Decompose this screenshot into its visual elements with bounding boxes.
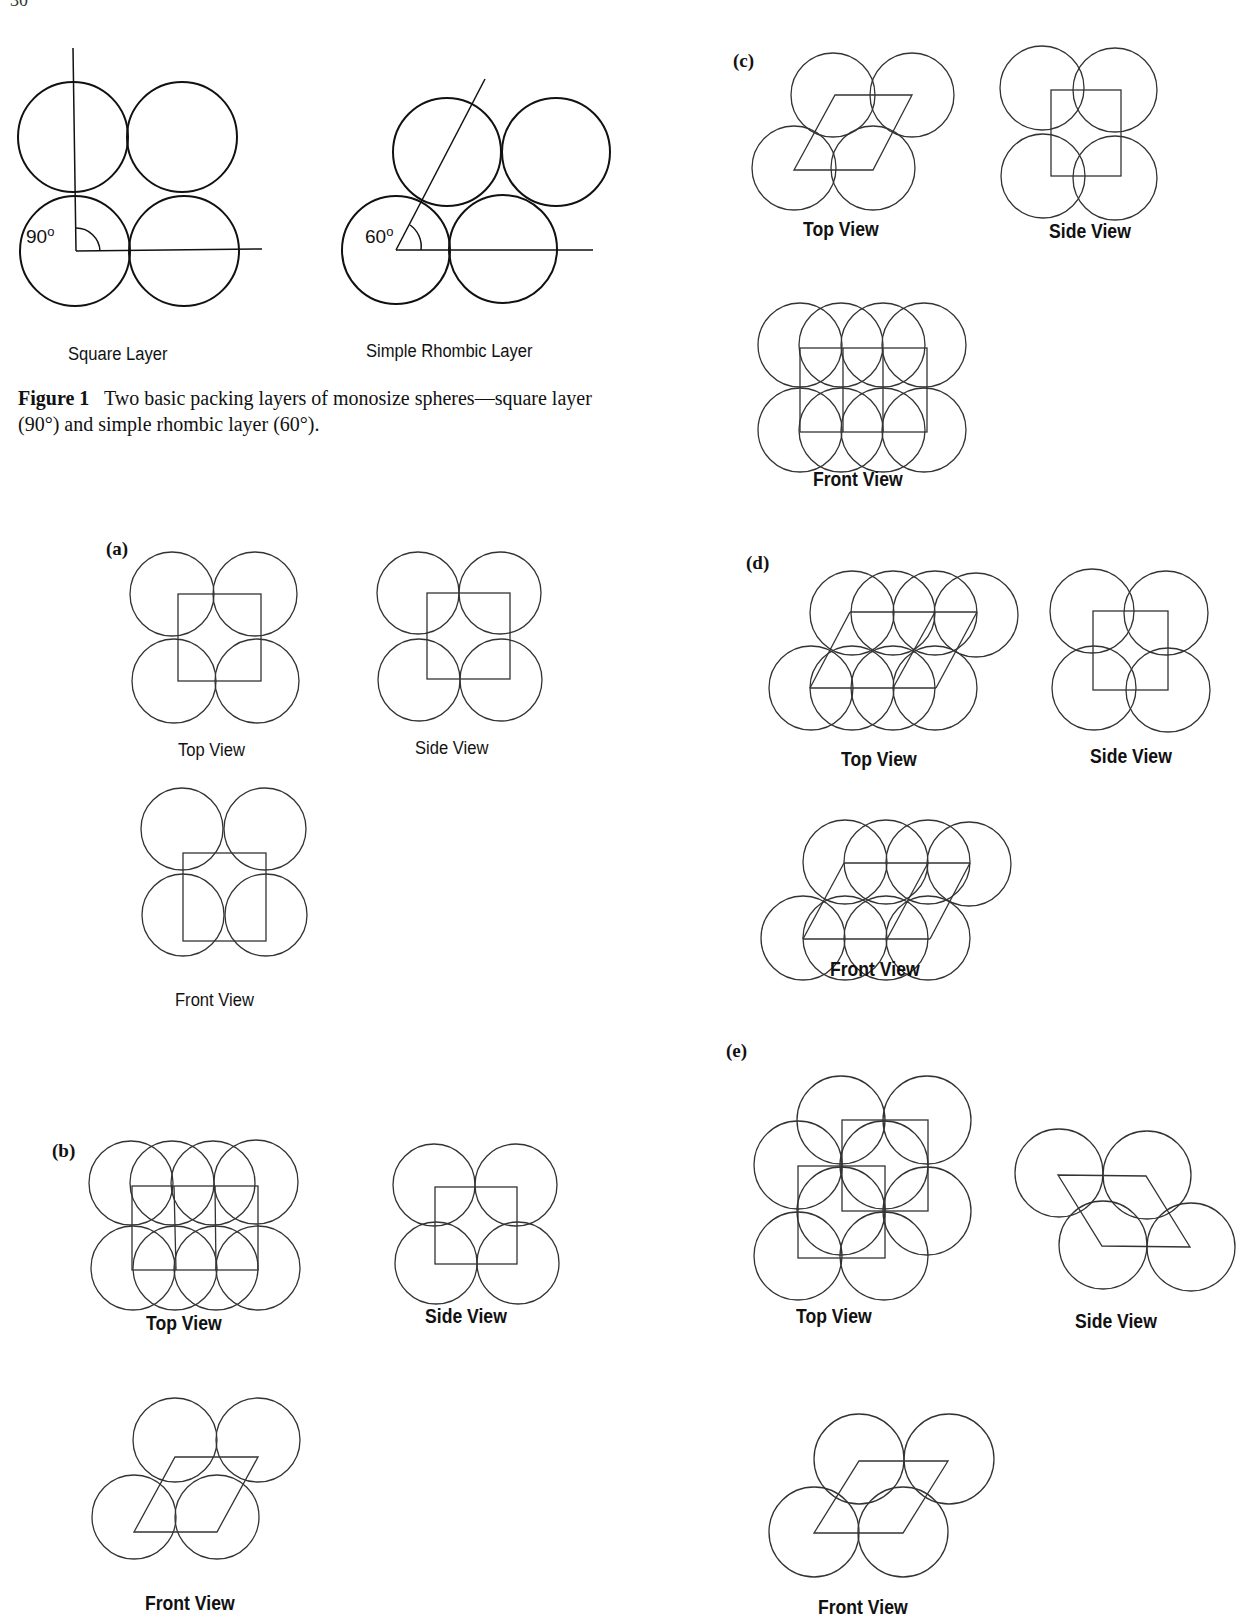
panel-e-front-view-label: Front View [818, 1596, 908, 1619]
panel-e-front-view [769, 1414, 994, 1577]
panel-d-side-view [1050, 569, 1210, 732]
panel-d-front-view [761, 820, 1011, 980]
panel-d-side-view-label: Side View [1090, 745, 1172, 768]
figure-1-label: Figure 1 [18, 387, 89, 409]
panel-a-front-view-label: Front View [175, 990, 254, 1011]
figure-1-caption-text: Two basic packing layers of monosize sph… [18, 387, 592, 435]
panel-b-tag: (b) [52, 1140, 75, 1162]
panel-b-top-view [89, 1140, 300, 1310]
panel-e-tag: (e) [726, 1040, 747, 1062]
panel-a-top-view-label: Top View [178, 740, 245, 761]
panel-b-front-view [92, 1398, 300, 1559]
panel-b-top-view-label: Top View [146, 1312, 222, 1335]
square-layer-diagram [18, 48, 262, 306]
panel-c-front-view-label: Front View [813, 468, 903, 491]
panel-c-side-view [1000, 46, 1157, 220]
panel-d-top-view [769, 571, 1018, 730]
panel-a-front-view [141, 788, 307, 956]
panel-d-tag: (d) [746, 552, 769, 574]
panel-d-top-view-label: Top View [841, 748, 917, 771]
panel-c-top-view [752, 53, 954, 210]
square-layer-label: Square Layer [68, 344, 167, 365]
figure-1-caption: Figure 1 Two basic packing layers of mon… [18, 385, 638, 437]
panel-b-side-view-label: Side View [425, 1305, 507, 1328]
panel-b-front-view-label: Front View [145, 1592, 235, 1615]
panel-a-side-view-label: Side View [415, 738, 488, 759]
panel-e-top-view-label: Top View [796, 1305, 872, 1328]
panel-d-front-view-label: Front View [830, 958, 920, 981]
angle-label-90: 90o [26, 224, 54, 248]
figures-canvas [0, 0, 1256, 1621]
rhombic-layer-diagram [342, 79, 610, 304]
panel-e-side-view [1015, 1129, 1235, 1291]
panel-a-tag: (a) [106, 538, 128, 560]
panel-c-tag: (c) [733, 50, 754, 72]
angle-label-60: 60o [365, 224, 393, 248]
panel-e-side-view-label: Side View [1075, 1310, 1157, 1333]
panel-a-top-view [130, 552, 299, 723]
panel-c-top-view-label: Top View [803, 218, 879, 241]
panel-c-side-view-label: Side View [1049, 220, 1131, 243]
panel-a-side-view [377, 552, 542, 721]
panel-b-side-view [393, 1144, 559, 1304]
rhombic-layer-label: Simple Rhombic Layer [366, 341, 533, 362]
panel-e-top-view [754, 1076, 971, 1300]
panel-c-front-view [758, 303, 966, 472]
